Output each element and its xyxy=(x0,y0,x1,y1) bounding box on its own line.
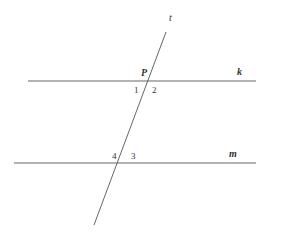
angle-1: 1 xyxy=(134,85,139,95)
angle-3: 3 xyxy=(131,151,136,161)
label-m: m xyxy=(229,148,237,159)
angle-2: 2 xyxy=(152,85,157,95)
label-k: k xyxy=(237,66,242,77)
transversal-t xyxy=(94,32,166,225)
label-t: t xyxy=(169,12,172,23)
angle-4: 4 xyxy=(112,151,117,161)
diagram-canvas: t P k m 1 2 4 3 xyxy=(0,0,281,236)
label-p: P xyxy=(141,67,148,78)
diagram-svg: t P k m 1 2 4 3 xyxy=(0,0,281,236)
